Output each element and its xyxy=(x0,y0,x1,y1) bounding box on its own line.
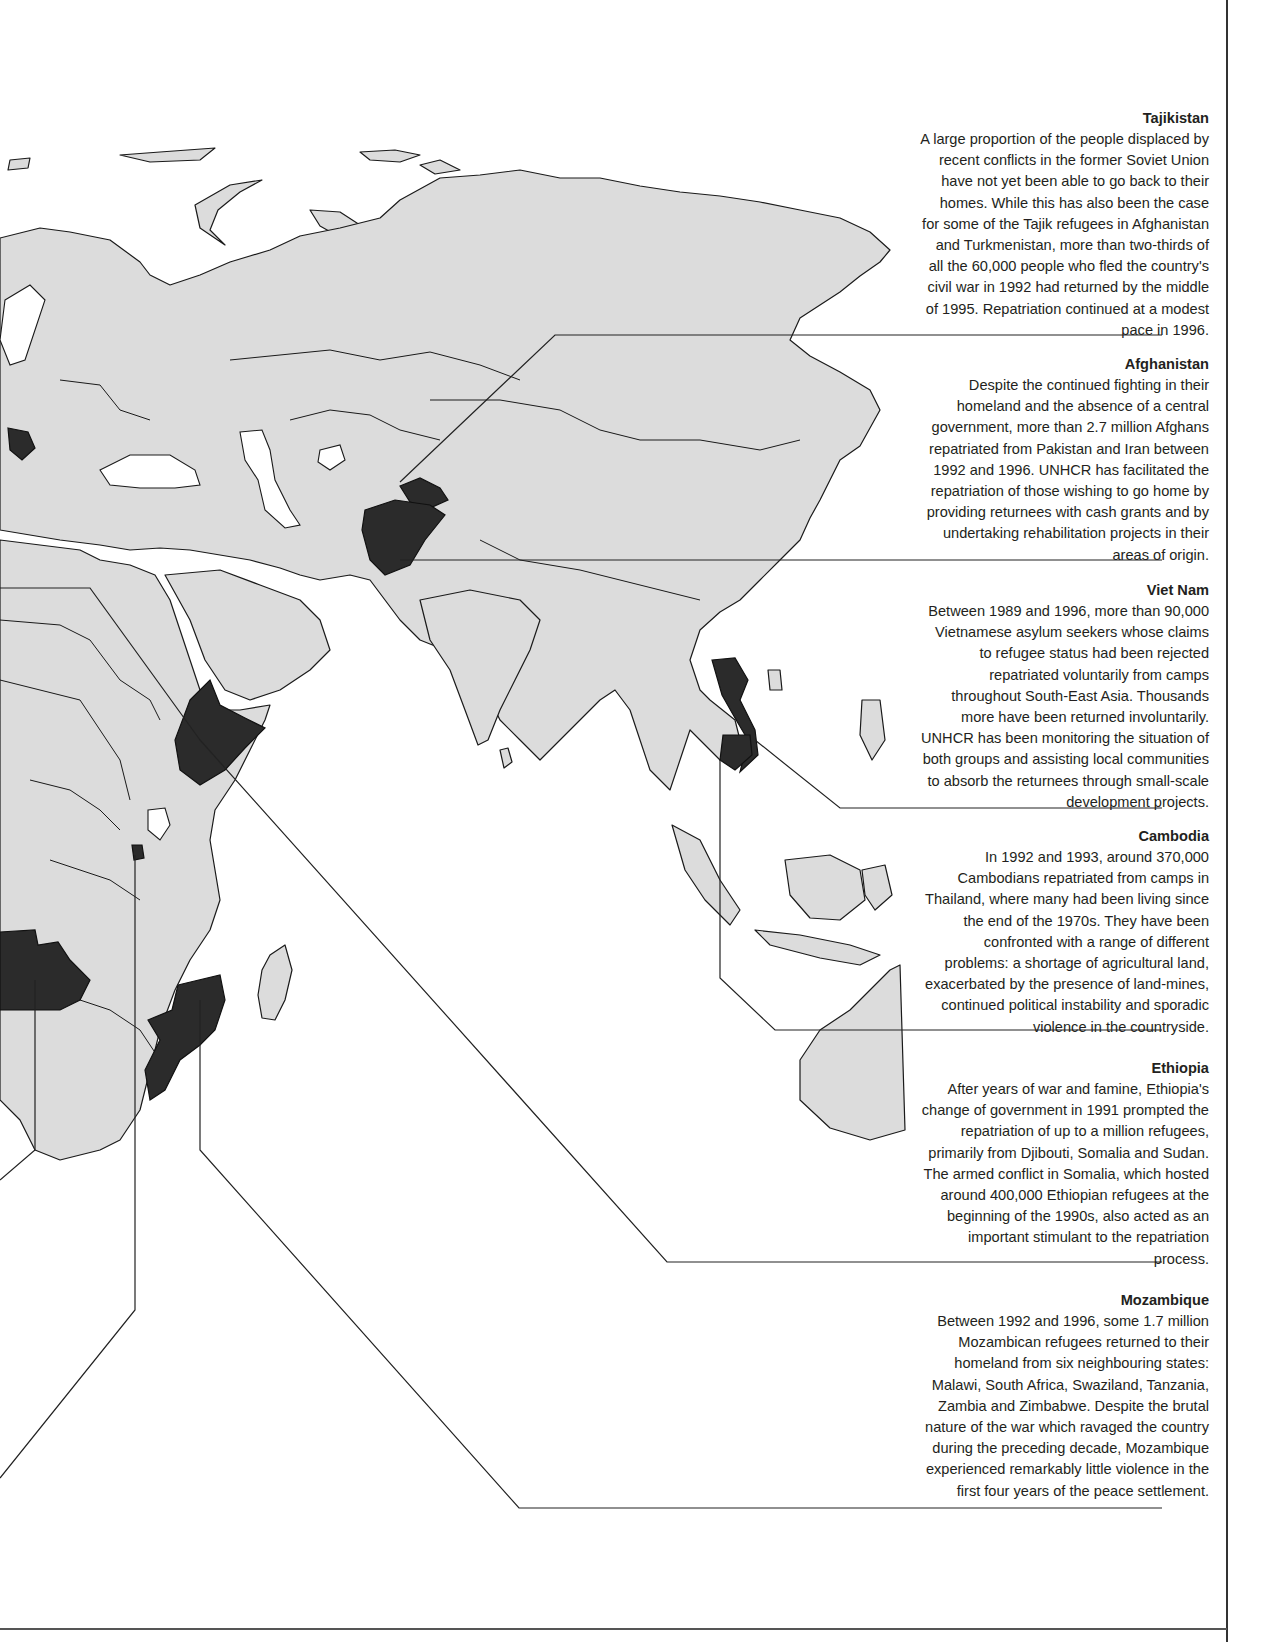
callout-mozambique: Mozambique Between 1992 and 1996, some 1… xyxy=(919,1290,1209,1502)
callout-text: Between 1989 and 1996, more than 90,000 … xyxy=(919,601,1209,813)
callout-title: Afghanistan xyxy=(919,354,1209,375)
callout-title: Ethiopia xyxy=(919,1058,1209,1079)
callout-title: Viet Nam xyxy=(919,580,1209,601)
australia xyxy=(800,965,905,1140)
rwanda-highlight xyxy=(132,845,144,860)
callout-text: Between 1992 and 1996, some 1.7 million … xyxy=(919,1311,1209,1502)
callout-text: A large proportion of the people displac… xyxy=(919,129,1209,341)
callout-title: Mozambique xyxy=(919,1290,1209,1311)
sri-lanka xyxy=(500,748,512,768)
madagascar xyxy=(258,945,292,1020)
callout-title: Cambodia xyxy=(919,826,1209,847)
callout-text: Despite the continued fighting in their … xyxy=(919,375,1209,566)
callout-title: Tajikistan xyxy=(919,108,1209,129)
callout-tajikistan: Tajikistan A large proportion of the peo… xyxy=(919,108,1209,341)
callout-text: In 1992 and 1993, around 370,000 Cambodi… xyxy=(919,847,1209,1038)
callout-cambodia: Cambodia In 1992 and 1993, around 370,00… xyxy=(919,826,1209,1038)
callout-text: After years of war and famine, Ethiopia'… xyxy=(919,1079,1209,1270)
callout-ethiopia: Ethiopia After years of war and famine, … xyxy=(919,1058,1209,1270)
callout-viet-nam: Viet Nam Between 1989 and 1996, more tha… xyxy=(919,580,1209,813)
callout-afghanistan: Afghanistan Despite the continued fighti… xyxy=(919,354,1209,566)
